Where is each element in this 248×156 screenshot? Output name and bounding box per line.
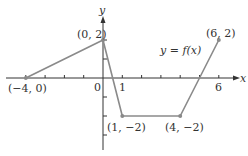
x-axis — [6, 75, 240, 81]
tick-label-1: 1 — [119, 81, 126, 94]
tick-label-0: 0 — [94, 81, 101, 94]
point-1-neg2 — [120, 114, 124, 118]
function-label: y = f(x) — [159, 44, 201, 57]
point-label-1-neg2: (1, −2) — [107, 121, 146, 134]
x-axis-label: x — [240, 72, 247, 85]
point-label-0-2: (0, 2) — [77, 28, 107, 41]
point-4-neg2 — [178, 114, 182, 118]
y-axis-label: y — [98, 4, 106, 17]
point-label-neg4-0: (−4, 0) — [8, 82, 47, 95]
x-axis-arrow-icon — [233, 76, 240, 81]
point-label-6-2: (6, 2) — [206, 27, 236, 40]
tick-label-6: 6 — [215, 81, 222, 94]
function-graph: y x 0 1 6 (−4, 0) (0, 2) (1, −2) (4, −2)… — [0, 0, 248, 156]
point-label-4-neg2: (4, −2) — [165, 121, 204, 134]
point-neg4-0 — [24, 76, 28, 80]
y-axis-arrow-icon — [101, 16, 106, 23]
